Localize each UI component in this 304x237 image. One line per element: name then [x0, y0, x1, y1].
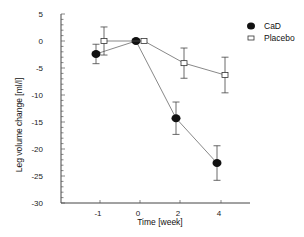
y-tick-label: -10: [31, 91, 43, 100]
y-tick-label: -25: [31, 172, 43, 181]
x-tick-label: -1: [94, 209, 102, 218]
legend: CaD Placebo: [247, 21, 295, 43]
x-axis-title: Time [week]: [137, 217, 183, 227]
x-tick-label: 4: [217, 209, 222, 218]
legend-cad-label: CaD: [264, 21, 281, 31]
y-tick-label: 0: [39, 37, 44, 46]
y-axis-title: Leg volume change [ml/l]: [14, 78, 24, 173]
cad-marker: [172, 114, 181, 122]
cad-marker: [92, 50, 101, 58]
series-line-placebo: [104, 41, 225, 75]
legend-placebo-marker-icon: [248, 36, 254, 40]
y-tick-label: -5: [36, 64, 44, 73]
legend-placebo-label: Placebo: [264, 33, 295, 43]
placebo-marker: [141, 39, 147, 44]
y-tick-label: -15: [31, 118, 43, 127]
y-tick-label: -20: [31, 145, 43, 154]
series-line-cad: [96, 41, 217, 163]
placebo-marker: [101, 39, 107, 44]
series-layer: [92, 27, 229, 180]
placebo-marker: [222, 73, 228, 78]
legend-cad-marker-icon: [247, 23, 255, 30]
y-tick-label: 5: [39, 10, 44, 19]
chart: 50-5-10-15-20-25-30-1024 CaD Placebo Tim…: [0, 0, 304, 237]
placebo-marker: [181, 61, 187, 66]
cad-marker: [213, 159, 222, 167]
y-tick-label: -30: [31, 199, 43, 208]
